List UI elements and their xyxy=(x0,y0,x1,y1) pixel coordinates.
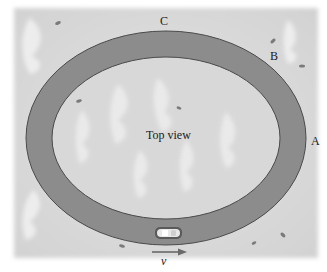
label-c: C xyxy=(160,14,168,29)
label-b: B xyxy=(270,49,278,64)
center-label: Top view xyxy=(146,128,191,143)
car xyxy=(155,227,182,239)
label-a: A xyxy=(311,134,320,149)
velocity-label: v xyxy=(161,254,166,269)
